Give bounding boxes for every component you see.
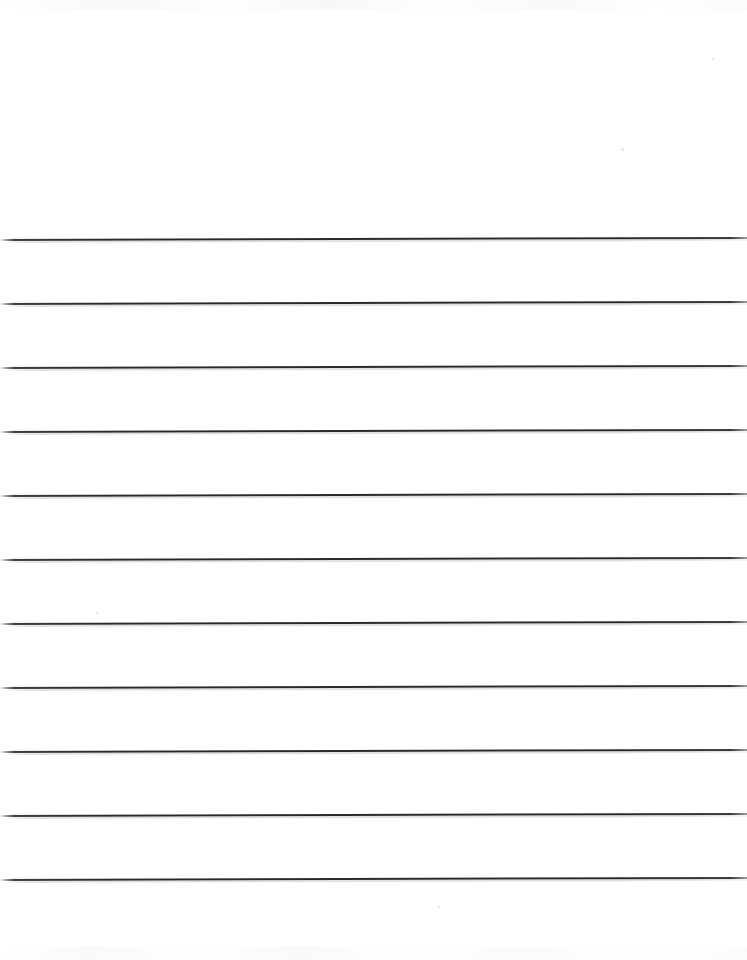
scan-speck [712,58,714,60]
rule-line [0,877,747,881]
ruled-line-group [0,0,747,960]
rule-line [0,493,747,497]
rule-line [0,621,747,625]
rule-line [0,429,747,433]
rule-line [0,365,747,369]
rule-line [0,237,747,241]
rule-line [0,685,747,689]
scan-speck [621,148,624,151]
scanned-page [0,0,747,960]
scan-speck [96,612,98,614]
rule-line [0,749,747,753]
rule-line [0,557,747,561]
scan-speck [438,906,440,908]
rule-line [0,301,747,305]
rule-line [0,813,747,817]
